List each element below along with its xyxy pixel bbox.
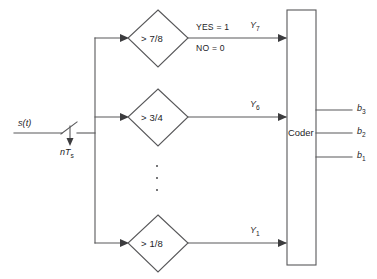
bit-sub-3: 3 (362, 108, 366, 115)
comparator-threshold-3: > 1/8 (141, 239, 163, 249)
input-signal-label: s(t) (18, 119, 31, 128)
sampler-rate-sub: s (71, 152, 74, 159)
output-sub-3: 1 (256, 230, 260, 237)
coder-output-label-b2: b2 (357, 127, 366, 138)
sampler-switch-arm (61, 122, 77, 134)
ellipsis-dot (156, 177, 158, 179)
comparator-output-label-3: Y1 (250, 226, 260, 237)
comparator-output-arrowhead-1 (278, 34, 287, 42)
diagram-canvas (0, 0, 377, 279)
coder-label: Coder (288, 128, 314, 137)
ellipsis-dot (156, 165, 158, 167)
sampler-clock-arrowhead (67, 138, 74, 146)
ellipsis-dot (156, 189, 158, 191)
comparator-threshold-2: > 3/4 (141, 113, 163, 123)
bit-sub-2: 2 (362, 131, 366, 138)
comparator-output-arrowhead-3 (278, 239, 287, 247)
comparator-threshold-1: > 7/8 (141, 34, 163, 44)
output-sub-2: 6 (256, 104, 260, 111)
coder-output-label-b3: b3 (357, 104, 366, 115)
output-sub-1: 7 (256, 25, 260, 32)
sampler-rate-base: nT (60, 147, 71, 157)
comparator-output-arrowhead-2 (278, 113, 287, 121)
comparator-output-label-2: Y6 (250, 100, 260, 111)
comparator-output-label-1: Y7 (250, 21, 260, 32)
bit-sub-1: 1 (362, 155, 366, 162)
coder-output-label-b1: b1 (357, 151, 366, 162)
vertical-ellipsis-icon (156, 165, 158, 191)
adc-block-diagram: s(t) nTs > 7/8 > 3/4 > 1/8 YES = 1 NO = … (0, 0, 377, 279)
yes-annotation: YES = 1 (196, 23, 229, 32)
no-annotation: NO = 0 (196, 44, 225, 53)
sampler-rate-label: nTs (60, 148, 74, 159)
